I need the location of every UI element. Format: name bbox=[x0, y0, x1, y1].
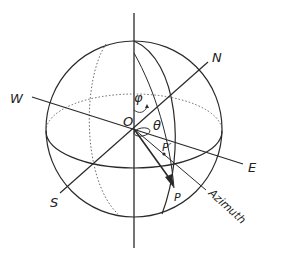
label-west: W bbox=[10, 91, 24, 106]
label-south: S bbox=[50, 195, 58, 210]
label-point: P bbox=[174, 191, 181, 204]
label-azimuth: Azimuth bbox=[205, 186, 248, 227]
phi-arrow-icon bbox=[145, 104, 149, 108]
phi-arc bbox=[134, 107, 147, 112]
label-projection: P′ bbox=[162, 141, 172, 154]
meridian-back bbox=[89, 44, 118, 214]
label-theta: θ bbox=[153, 118, 161, 133]
celestial-sphere-diagram: W E N S O φ θ P P′ Azimuth bbox=[0, 0, 281, 269]
label-origin: O bbox=[123, 114, 133, 129]
label-phi: φ bbox=[134, 90, 143, 105]
label-east: E bbox=[248, 160, 257, 175]
label-north: N bbox=[212, 50, 222, 65]
